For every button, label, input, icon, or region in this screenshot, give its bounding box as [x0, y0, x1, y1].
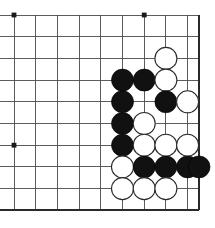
stone-black[interactable]: [112, 113, 134, 135]
star-point-hoshi: [142, 13, 147, 18]
go-board-diagram: [0, 0, 215, 228]
stone-black[interactable]: [112, 91, 134, 113]
stone-black[interactable]: [155, 156, 177, 178]
stone-black[interactable]: [133, 156, 155, 178]
stone-black[interactable]: [112, 69, 134, 91]
stone-black[interactable]: [112, 134, 134, 156]
stone-white[interactable]: [155, 69, 177, 91]
stone-white[interactable]: [155, 134, 177, 156]
stone-white[interactable]: [177, 91, 199, 113]
stone-black[interactable]: [133, 69, 155, 91]
stone-white[interactable]: [112, 156, 134, 178]
stone-white[interactable]: [112, 178, 134, 200]
stone-white[interactable]: [155, 178, 177, 200]
stone-white[interactable]: [133, 113, 155, 135]
stone-black[interactable]: [188, 156, 210, 178]
stone-white[interactable]: [133, 178, 155, 200]
stone-white[interactable]: [177, 134, 199, 156]
go-board-canvas[interactable]: [0, 0, 215, 228]
star-point-hoshi: [12, 13, 17, 18]
star-point-hoshi: [12, 143, 17, 148]
stone-black[interactable]: [155, 91, 177, 113]
stone-white[interactable]: [155, 47, 177, 69]
stone-white[interactable]: [133, 134, 155, 156]
